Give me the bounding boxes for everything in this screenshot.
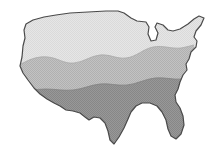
zone-stack bbox=[0, 0, 220, 154]
us-map-figure: United States Three-Zone Shaded Map Cont… bbox=[0, 0, 220, 154]
us-map-svg bbox=[0, 0, 220, 154]
